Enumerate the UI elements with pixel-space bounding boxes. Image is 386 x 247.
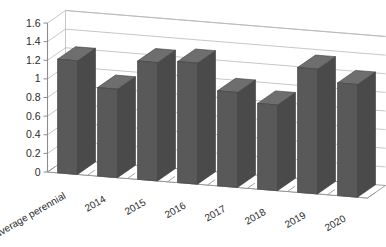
y-axis-tick-label: 0.8 (26, 91, 41, 103)
bar-front-face (298, 68, 318, 194)
bar (338, 70, 376, 197)
y-axis-tick-label: 0 (35, 166, 41, 178)
bar-front-face (258, 103, 278, 190)
y-axis-tick-label: 0.6 (26, 110, 41, 122)
y-axis-tick-label: 1.4 (26, 35, 41, 47)
bar (178, 49, 216, 184)
bar-side-face (358, 72, 376, 197)
bar-front-face (138, 61, 158, 181)
y-axis-labels: 1.61.41.210.80.60.40.20 (26, 17, 41, 178)
bar (298, 55, 336, 194)
bar-front-face (178, 62, 198, 185)
bar (218, 78, 256, 187)
bar-front-face (218, 91, 238, 188)
bar-side-face (238, 80, 256, 187)
bar (98, 75, 136, 178)
bar-side-face (198, 51, 216, 185)
bar-side-face (318, 57, 336, 194)
chart-canvas: 1.61.41.210.80.60.40.20 average perennia… (0, 0, 386, 247)
bar-front-face (58, 59, 78, 174)
y-axis-tick-label: 0.2 (26, 147, 41, 159)
bar-front-face (98, 88, 118, 178)
y-axis-tick-label: 1.6 (26, 17, 41, 29)
y-axis-tick-label: 0.4 (26, 128, 41, 140)
bar-chart: 1.61.41.210.80.60.40.20 average perennia… (0, 0, 386, 247)
y-axis-tick-label: 1.2 (26, 54, 41, 66)
bar (258, 91, 296, 191)
bar (58, 47, 96, 175)
bar-side-face (118, 77, 136, 178)
bar-side-face (78, 48, 96, 174)
bar-side-face (158, 50, 176, 181)
bar-side-face (278, 93, 296, 191)
y-axis-tick-label: 1 (35, 72, 41, 84)
bar (138, 49, 176, 181)
bar-front-face (338, 83, 358, 197)
